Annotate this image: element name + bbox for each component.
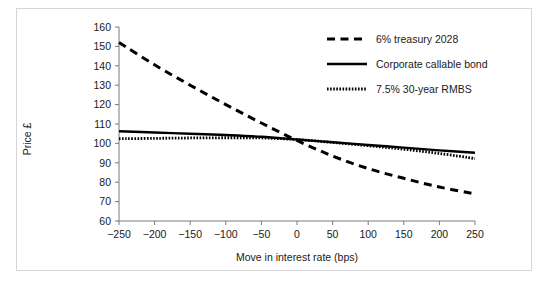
y-tick-label: 140 — [93, 60, 111, 72]
x-tick-label: 50 — [327, 228, 339, 240]
x-tick-label: 0 — [294, 228, 300, 240]
x-tick-label: −150 — [178, 228, 202, 240]
y-axis-tick-labels: 60708090100110120130140150160 — [93, 21, 111, 227]
line-chart: 60708090100110120130140150160 −250−200−1… — [17, 9, 531, 270]
y-tick-label: 130 — [93, 79, 111, 91]
x-tick-label: −200 — [143, 228, 167, 240]
y-axis-ticks — [115, 27, 119, 221]
y-tick-label: 100 — [93, 137, 111, 149]
chart-figure: 60708090100110120130140150160 −250−200−1… — [16, 8, 532, 271]
x-tick-label: 150 — [395, 228, 413, 240]
y-tick-label: 160 — [93, 21, 111, 33]
x-tick-label: 250 — [466, 228, 484, 240]
y-tick-label: 110 — [94, 118, 111, 130]
x-axis-tick-labels: −250−200−150−100−50050100150200250 — [107, 228, 484, 240]
y-tick-label: 70 — [99, 195, 111, 207]
legend-label-2: Corporate callable bond — [376, 58, 488, 70]
x-axis-title: Move in interest rate (bps) — [236, 251, 358, 263]
y-tick-label: 60 — [99, 215, 111, 227]
y-tick-label: 150 — [93, 40, 111, 52]
x-tick-label: 100 — [359, 228, 377, 240]
y-axis-title: Price £ — [21, 123, 33, 156]
chart-axes: 60708090100110120130140150160 −250−200−1… — [93, 21, 483, 240]
x-tick-label: −50 — [252, 228, 270, 240]
y-tick-label: 80 — [99, 176, 111, 188]
x-axis-ticks — [119, 221, 475, 225]
x-tick-label: −250 — [107, 228, 131, 240]
x-tick-label: −100 — [214, 228, 238, 240]
legend-label-1: 6% treasury 2028 — [376, 33, 458, 45]
y-tick-label: 90 — [99, 157, 111, 169]
y-tick-label: 120 — [93, 98, 111, 110]
chart-legend: 6% treasury 2028Corporate callable bond7… — [327, 33, 488, 95]
x-tick-label: 200 — [431, 228, 449, 240]
legend-label-3: 7.5% 30-year RMBS — [376, 83, 472, 95]
